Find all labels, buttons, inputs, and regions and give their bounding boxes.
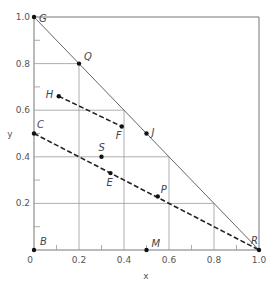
- point-label-b: B: [40, 236, 47, 247]
- point-j: [144, 131, 148, 135]
- tie-line: [34, 134, 259, 251]
- point-label-g: G: [39, 13, 47, 24]
- y-tick-label: 1.0: [16, 12, 31, 22]
- point-m: [144, 248, 148, 252]
- x-tick-label: 0.8: [207, 255, 222, 265]
- point-label-c: C: [37, 119, 44, 130]
- point-label-h: H: [46, 89, 54, 100]
- y-axis-label: y: [7, 129, 13, 139]
- grid-lines: [34, 64, 214, 250]
- y-tick-label: 0.8: [16, 59, 31, 69]
- point-label-r: R: [251, 235, 258, 246]
- axis-ticks: [34, 40, 237, 250]
- point-label-e: E: [107, 177, 114, 188]
- ternary-diagram-chart: GQHFJCSEPBMR 00.20.40.60.81.00.20.40.60.…: [0, 0, 275, 284]
- x-axis-label: x: [143, 271, 149, 281]
- point-b: [32, 248, 36, 252]
- point-e: [108, 171, 112, 175]
- point-s: [99, 155, 103, 159]
- tick-labels: 00.20.40.60.81.00.20.40.60.81.0: [16, 12, 267, 265]
- point-p: [156, 194, 160, 198]
- point-q: [77, 61, 81, 65]
- point-label-p: P: [161, 184, 168, 195]
- x-tick-label: 0: [27, 255, 33, 265]
- point-h: [57, 94, 61, 98]
- y-tick-label: 0.6: [16, 105, 31, 115]
- point-labels: GQHFJCSEPBMR: [37, 13, 258, 249]
- point-label-m: M: [152, 238, 161, 249]
- point-f: [120, 124, 124, 128]
- point-label-q: Q: [84, 51, 92, 62]
- point-label-s: S: [99, 142, 106, 153]
- x-tick-label: 1.0: [252, 255, 267, 265]
- tie-line: [59, 96, 122, 126]
- x-tick-label: 0.2: [72, 255, 86, 265]
- y-tick-label: 0.4: [16, 152, 31, 162]
- y-tick-label: 0.2: [16, 198, 30, 208]
- point-g: [32, 15, 36, 19]
- point-label-f: F: [116, 130, 122, 141]
- point-r: [257, 248, 261, 252]
- point-c: [32, 131, 36, 135]
- x-tick-label: 0.6: [162, 255, 177, 265]
- point-label-j: J: [150, 127, 155, 138]
- x-tick-label: 0.4: [117, 255, 132, 265]
